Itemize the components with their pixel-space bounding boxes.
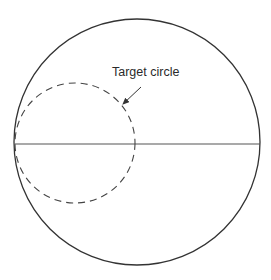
outer-circle (14, 19, 260, 265)
arrow-pointer-icon (123, 87, 141, 104)
diagram-canvas: Target circle (0, 0, 271, 280)
target-circle-label: Target circle (112, 65, 179, 79)
target-circle (15, 83, 135, 203)
